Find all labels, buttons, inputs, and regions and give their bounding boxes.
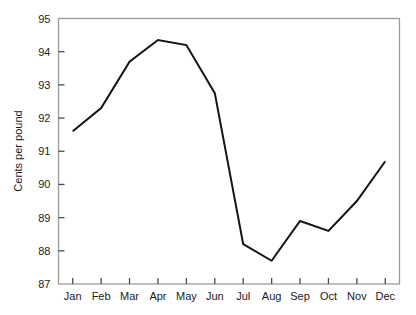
x-axis-tick-label: Oct <box>320 290 337 302</box>
x-axis-tick-label: Feb <box>92 290 111 302</box>
x-axis-tick-label: Apr <box>149 290 166 302</box>
y-axis-tick-label: 88 <box>38 245 50 257</box>
y-axis-tick-label: 90 <box>38 178 50 190</box>
y-axis-tick-label: 89 <box>38 212 50 224</box>
x-axis-tick-label: May <box>176 290 197 302</box>
y-axis-tick-label: 87 <box>38 278 50 290</box>
x-axis-tick-label: Aug <box>262 290 282 302</box>
line-chart: 878889909192939495 JanFebMarAprMayJunJul… <box>0 0 416 315</box>
y-axis-tick-label: 95 <box>38 13 50 25</box>
y-axis-tick-label: 94 <box>38 46 50 58</box>
x-axis-tick-label: Jul <box>236 290 250 302</box>
y-axis-tick-label: 93 <box>38 79 50 91</box>
y-axis-title: Cents per pound <box>12 110 24 191</box>
x-axis-tick-label: Jun <box>206 290 224 302</box>
x-axis-tick-label: Jan <box>64 290 82 302</box>
x-axis-tick-label: Sep <box>290 290 310 302</box>
chart-background <box>0 0 416 315</box>
y-axis-tick-label: 92 <box>38 112 50 124</box>
y-axis-tick-label: 91 <box>38 145 50 157</box>
x-axis-tick-label: Dec <box>376 290 396 302</box>
x-axis-tick-label: Nov <box>347 290 367 302</box>
x-axis-tick-label: Mar <box>120 290 139 302</box>
y-axis-tick-labels: 878889909192939495 <box>38 13 50 291</box>
chart-canvas: 878889909192939495 JanFebMarAprMayJunJul… <box>0 0 416 315</box>
